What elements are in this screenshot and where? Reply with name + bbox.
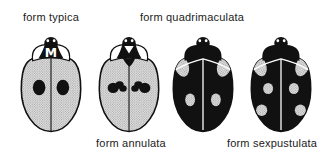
label-form-annulata: form annulata: [96, 137, 166, 150]
ladybird-forms-figure: form typica form quadrimaculata form ann…: [0, 0, 331, 160]
beetle-form-quadrimaculata: [170, 36, 236, 135]
eye-right: [205, 39, 208, 42]
eye-right: [283, 39, 286, 42]
label-form-quadrimaculata: form quadrimaculata: [140, 11, 244, 24]
pronotum-m-mark: M: [45, 46, 57, 60]
beetle-form-sexpustulata: [248, 36, 314, 135]
label-form-sexpustulata: form sexpustulata: [227, 137, 317, 150]
beetle-form-typica: M: [18, 36, 84, 135]
eye-right: [131, 39, 134, 42]
eye-left: [276, 39, 279, 42]
eye-left: [198, 39, 201, 42]
beetle-form-annulata: [96, 36, 162, 135]
eye-left: [124, 39, 127, 42]
eye-right: [53, 39, 56, 42]
eye-left: [46, 39, 49, 42]
label-form-typica: form typica: [23, 11, 79, 24]
